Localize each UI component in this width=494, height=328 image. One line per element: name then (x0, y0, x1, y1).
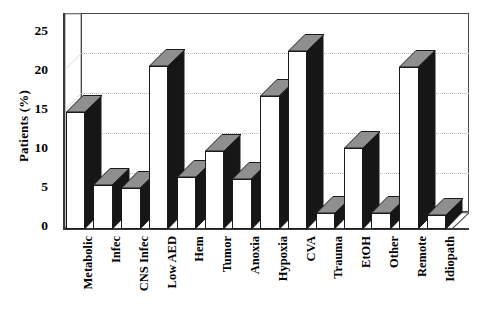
x-tick-label: Hem (192, 236, 207, 262)
bar-top-face (427, 198, 466, 217)
x-tick-label: Tumor (220, 236, 235, 272)
x-tick-label: Other (387, 236, 402, 268)
x-tick-label: Idiopath (443, 236, 458, 282)
bar-front-face (205, 151, 225, 229)
x-tick-label: EtOH (359, 236, 374, 268)
bar-front-face (149, 66, 169, 229)
bar-top-face (66, 95, 105, 114)
bar-top-face (344, 131, 383, 150)
x-tick-label: Metabolic (81, 236, 96, 289)
bar-front-face (427, 215, 447, 229)
bar-front-face (260, 96, 280, 229)
x-tick-label: Hypoxia (276, 236, 291, 281)
bar-front-face (232, 179, 252, 229)
plot-area (0, 0, 494, 328)
x-tick-label: CNS Infec (137, 236, 152, 291)
bar-front-face (177, 177, 197, 229)
x-tick-label: Low AED (165, 236, 180, 288)
x-tick-label: Trauma (331, 236, 346, 279)
x-tick-label: Infec (109, 236, 124, 263)
x-tick-label: Remote (415, 236, 430, 277)
bar-front-face (288, 51, 308, 229)
bar-chart: Patients (%) 25 20 15 10 5 0 (0, 0, 494, 328)
bar-front-face (316, 213, 336, 229)
bar-front-face (399, 67, 419, 229)
bar-top-face (149, 49, 188, 68)
bar-front-face (344, 148, 364, 229)
bar-front-face (371, 213, 391, 229)
bar-front-face (121, 188, 141, 229)
x-tick-label: CVA (304, 236, 319, 261)
bar-idiopath (427, 198, 464, 229)
bar-front-face (93, 185, 113, 229)
bar-top-face (205, 134, 244, 153)
x-tick-label: Anoxia (248, 236, 263, 274)
bar-top-face (399, 50, 438, 69)
bar-top-face (288, 34, 327, 53)
bar-front-face (66, 112, 86, 229)
